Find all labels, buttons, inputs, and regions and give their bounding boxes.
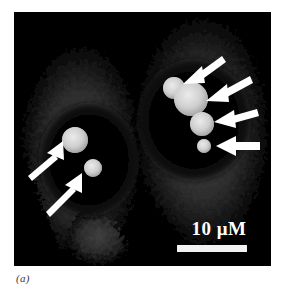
droplet-right-2 bbox=[174, 82, 208, 116]
figure-panel-a: 10 μM (a) bbox=[0, 0, 283, 291]
panel-caption: (a) bbox=[16, 272, 30, 284]
micrograph-panel: 10 μM bbox=[14, 12, 271, 266]
droplet-left-1 bbox=[62, 127, 88, 153]
droplet-right-3 bbox=[190, 112, 214, 136]
droplet-left-2 bbox=[84, 159, 102, 177]
droplet-right-4 bbox=[197, 139, 211, 153]
micrograph-image bbox=[14, 12, 271, 266]
arrow-right-4-shaft bbox=[236, 142, 260, 150]
